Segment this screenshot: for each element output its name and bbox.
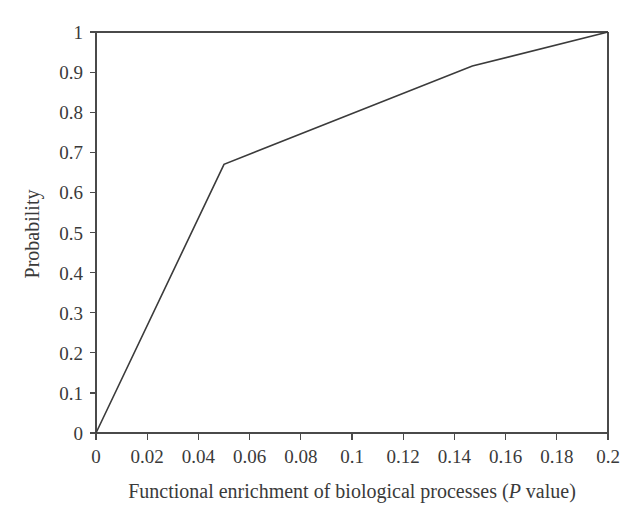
x-tick-label: 0.02 <box>131 446 164 467</box>
x-tick-label: 0.1 <box>340 446 364 467</box>
y-tick-label: 0.3 <box>59 303 83 324</box>
y-tick-label: 0.8 <box>59 102 83 123</box>
y-tick-label: 0.5 <box>59 223 83 244</box>
x-axis-title-part2: value) <box>521 480 576 503</box>
x-tick-label: 0.2 <box>596 446 620 467</box>
y-tick-label: 0.7 <box>59 142 83 163</box>
line-chart: 0 0.1 0.2 0.3 0.4 0.5 0.6 0.7 0.8 0.9 1 … <box>0 0 643 515</box>
y-tick-label: 0.9 <box>59 62 83 83</box>
x-tick-label: 0 <box>91 446 101 467</box>
axis-lines <box>96 32 608 433</box>
y-tick-label: 0.4 <box>59 263 83 284</box>
y-axis-title: Probability <box>21 190 44 279</box>
chart-figure: 0 0.1 0.2 0.3 0.4 0.5 0.6 0.7 0.8 0.9 1 … <box>0 0 643 515</box>
x-tick-label: 0.04 <box>182 446 216 467</box>
plot-frame <box>96 32 608 433</box>
data-line-series <box>96 32 608 433</box>
x-tick-label: 0.06 <box>233 446 266 467</box>
y-tick-label: 1 <box>74 22 84 43</box>
x-tick-label: 0.08 <box>284 446 317 467</box>
y-tick-label: 0.6 <box>59 182 83 203</box>
x-axis-title-italic-p: P <box>508 480 521 502</box>
y-tick-label: 0 <box>74 423 84 444</box>
x-tick-label: 0.12 <box>387 446 420 467</box>
x-tick-label: 0.18 <box>540 446 573 467</box>
y-axis-ticks <box>90 32 96 433</box>
y-tick-label: 0.2 <box>59 343 83 364</box>
x-tick-label: 0.16 <box>489 446 522 467</box>
x-tick-label: 0.14 <box>438 446 472 467</box>
x-axis-ticks <box>96 433 608 440</box>
x-tick-labels: 0 0.02 0.04 0.06 0.08 0.1 0.12 0.14 0.16… <box>91 446 620 467</box>
y-tick-labels: 0 0.1 0.2 0.3 0.4 0.5 0.6 0.7 0.8 0.9 1 <box>59 22 83 444</box>
y-tick-label: 0.1 <box>59 383 83 404</box>
x-axis-title-part1: Functional enrichment of biological proc… <box>128 480 509 503</box>
x-axis-title: Functional enrichment of biological proc… <box>128 480 576 503</box>
